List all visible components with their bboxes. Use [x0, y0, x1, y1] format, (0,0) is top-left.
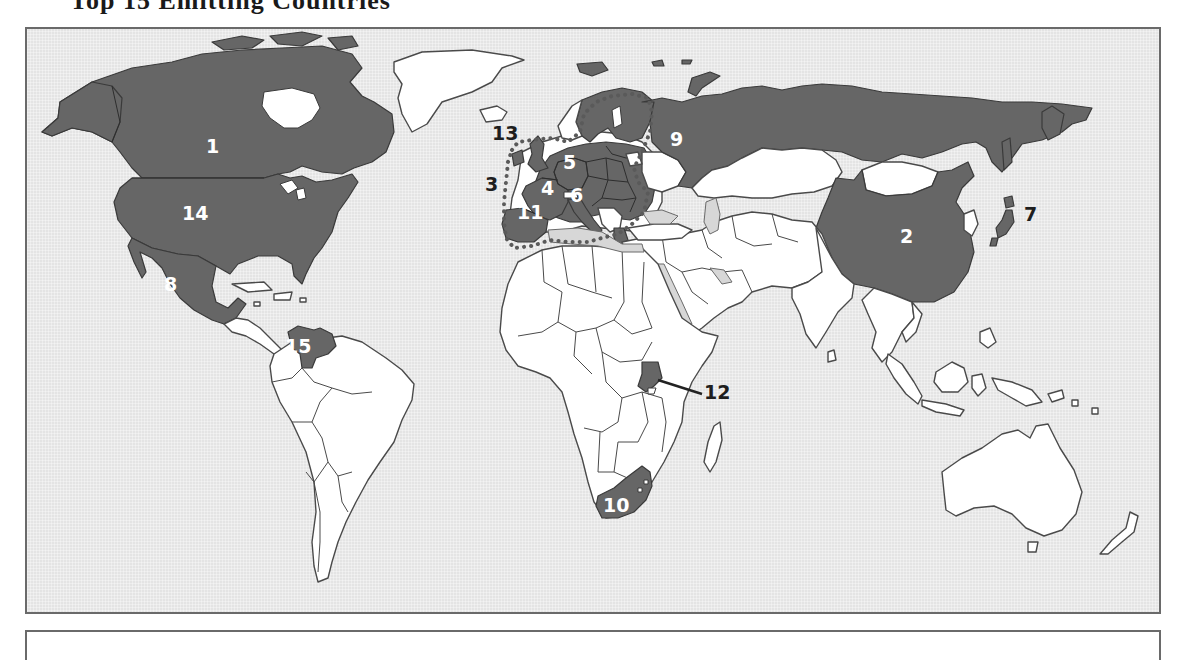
label-12-uganda: 12 — [704, 383, 730, 402]
turkey — [628, 224, 692, 240]
label-13-uk: 13 — [492, 124, 518, 143]
madagascar — [704, 422, 722, 472]
label-7-japan: 7 — [1024, 205, 1037, 224]
label-3-eu: 3 — [485, 175, 498, 194]
label-10-south-africa: 10 — [603, 496, 629, 515]
world-map-frame — [25, 27, 1161, 614]
label-2-china: 2 — [900, 227, 913, 246]
secondary-panel-frame — [25, 630, 1161, 660]
tasmania — [1028, 542, 1038, 552]
united-states — [114, 174, 358, 284]
label-6-italy: 6 — [570, 186, 583, 205]
label-11-spain: 11 — [517, 203, 543, 222]
central-america — [224, 318, 284, 354]
greenland — [394, 50, 524, 132]
japan — [990, 196, 1014, 246]
world-map — [25, 27, 1161, 614]
kamchatka — [1042, 106, 1064, 140]
se-asia — [862, 288, 914, 362]
label-4-france: 4 — [541, 179, 554, 198]
label-9-russia: 9 — [670, 130, 683, 149]
page-title: Top 15 Emitting Countries — [70, 0, 391, 16]
label-14-usa: 14 — [182, 204, 208, 223]
korea — [964, 210, 978, 236]
label-8-mexico: 8 — [164, 275, 177, 294]
label-5-germany: 5 — [563, 153, 576, 172]
label-15-venezuela: 15 — [285, 337, 311, 356]
label-1-canada: 1 — [206, 137, 219, 156]
sri-lanka — [828, 350, 836, 362]
alaska — [42, 82, 122, 142]
iceland — [480, 106, 507, 122]
new-zealand — [1100, 512, 1138, 554]
south-america — [270, 336, 414, 582]
australia — [942, 424, 1082, 536]
